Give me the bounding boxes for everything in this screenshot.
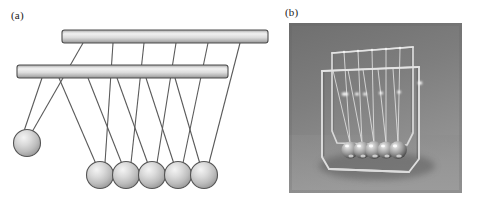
resting-sphere-4: [165, 162, 192, 189]
front-string-4: [146, 78, 174, 164]
spheres-group: [14, 130, 218, 189]
front-string-2: [88, 78, 122, 164]
resting-sphere-1: [87, 162, 114, 189]
rear-string-5: [209, 43, 240, 163]
rear-string-raised: [32, 43, 83, 132]
front-string-raised: [24, 78, 42, 131]
resting-sphere-5: [191, 162, 218, 189]
panel-label-b: (b): [285, 6, 298, 18]
rear-string-4: [183, 43, 208, 163]
raised-sphere: [14, 130, 41, 157]
rear-strings-group: [32, 43, 240, 163]
figure-container: (a) (b): [0, 0, 479, 206]
front-strings-group: [24, 78, 200, 164]
rear-string-1: [105, 43, 113, 163]
resting-sphere-3: [139, 162, 166, 189]
front-support-bar: [17, 65, 228, 78]
rear-string-2: [131, 43, 144, 163]
front-string-5: [175, 78, 200, 164]
resting-sphere-2: [113, 162, 140, 189]
front-string-1: [59, 78, 96, 164]
newtons-cradle-photograph: [289, 23, 462, 193]
rear-support-bar: [62, 30, 268, 43]
newtons-cradle-schematic: [0, 0, 285, 206]
rear-string-3: [157, 43, 176, 163]
